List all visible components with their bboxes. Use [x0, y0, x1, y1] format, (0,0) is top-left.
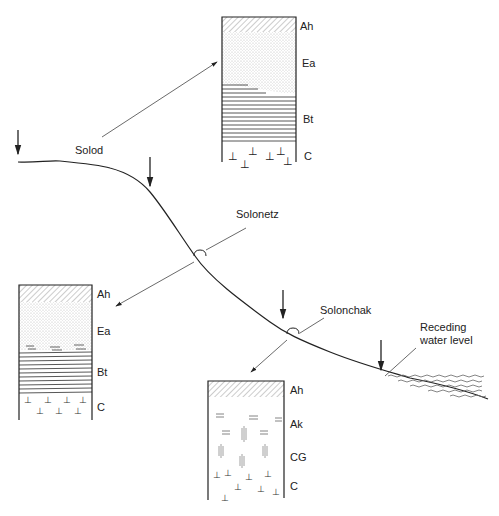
svg-text:⊥: ⊥	[79, 395, 87, 405]
solonetz-site-bracket	[194, 250, 206, 256]
solonetz-leader-line	[206, 228, 246, 250]
solod-horizon-c: C	[304, 150, 312, 162]
svg-text:⊥: ⊥	[74, 406, 82, 416]
water-level-label-line1: Receding	[420, 321, 466, 333]
svg-text:⊥: ⊥	[257, 484, 265, 494]
solonchak-label: Solonchak	[320, 304, 372, 316]
water-level-leader-line	[385, 348, 416, 376]
solonchak-pointer-arrow	[251, 340, 287, 372]
solonchak-horizon-ak: Ak	[290, 418, 303, 430]
solonchak-leader-line	[300, 318, 324, 333]
solod-pointer-arrow	[102, 62, 217, 137]
solod-horizon-ah: Ah	[300, 20, 313, 32]
gley-mottles	[219, 426, 267, 468]
solonetz-horizon-bt: Bt	[97, 366, 107, 378]
svg-text:⊥: ⊥	[221, 493, 229, 503]
solod-label: Solod	[75, 144, 103, 156]
svg-text:⊥: ⊥	[272, 487, 280, 497]
solonetz-label: Solonetz	[236, 208, 279, 220]
svg-text:⊥: ⊥	[248, 145, 258, 157]
svg-text:⊥: ⊥	[265, 150, 275, 162]
solod-horizon-ea: Ea	[302, 57, 316, 69]
svg-text:⊥: ⊥	[283, 155, 293, 167]
svg-text:⊥: ⊥	[36, 406, 44, 416]
svg-text:⊥: ⊥	[234, 482, 242, 492]
solonchak-horizon-c: C	[290, 480, 298, 492]
solod-horizon-bt: Bt	[303, 113, 313, 125]
solonchak-profile: ⊥⊥⊥⊥ ⊥⊥⊥⊥ Ah Ak CG C	[208, 381, 307, 503]
svg-text:⊥: ⊥	[213, 470, 221, 480]
solonetz-profile: ⊥⊥⊥⊥ ⊥⊥⊥ Ah Ea Bt C	[19, 285, 111, 420]
svg-text:⊥: ⊥	[55, 406, 63, 416]
soil-catena-diagram: Solod Solonetz Solonchak Receding water …	[0, 0, 499, 516]
solonetz-horizon-ah: Ah	[97, 288, 110, 300]
svg-text:⊥: ⊥	[63, 395, 71, 405]
svg-text:⊥: ⊥	[264, 469, 272, 479]
solonetz-horizon-c: C	[97, 401, 105, 413]
svg-text:⊥: ⊥	[245, 472, 253, 482]
svg-text:⊥: ⊥	[228, 150, 238, 162]
svg-text:⊥: ⊥	[44, 395, 52, 405]
solonetz-horizon-ea: Ea	[97, 325, 111, 337]
solonchak-horizon-cg: CG	[290, 451, 307, 463]
solonetz-pointer-arrow	[116, 262, 194, 306]
svg-text:⊥: ⊥	[240, 158, 250, 170]
solod-profile: ⊥⊥⊥ ⊥⊥⊥ Ah Ea Bt C	[222, 17, 316, 170]
slope-surface-line	[18, 161, 488, 399]
svg-text:⊥: ⊥	[224, 468, 232, 478]
svg-text:⊥: ⊥	[24, 395, 32, 405]
water-level-label-line2: water level	[419, 334, 473, 346]
solonchak-horizon-ah: Ah	[290, 384, 303, 396]
